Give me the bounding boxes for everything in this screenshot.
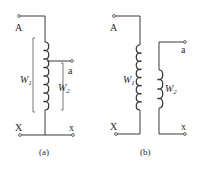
terminal-X-a bbox=[19, 134, 22, 137]
coil-w1-a bbox=[44, 42, 49, 110]
coil-w1-b bbox=[136, 45, 141, 110]
label-w1-a: W1 bbox=[20, 74, 32, 87]
panel-b: A a X x W1 W2 (b) bbox=[110, 15, 186, 157]
label-w2-a: W2 bbox=[58, 82, 70, 95]
label-A-a: A bbox=[15, 22, 23, 33]
label-a-b: a bbox=[181, 44, 186, 55]
caption-b: (b) bbox=[140, 147, 151, 157]
terminal-A-a bbox=[18, 15, 21, 18]
terminal-x-a bbox=[72, 134, 75, 137]
caption-a: (a) bbox=[39, 147, 49, 157]
label-x-a: x bbox=[69, 122, 74, 133]
label-a-a: a bbox=[68, 65, 73, 76]
wire-a-top bbox=[19, 16, 45, 42]
label-X-b: X bbox=[110, 121, 118, 132]
label-w1-b: W1 bbox=[123, 74, 135, 87]
coil-w2-b bbox=[158, 70, 163, 108]
label-w2-b: W2 bbox=[165, 83, 177, 96]
label-x-b: x bbox=[181, 121, 186, 132]
transformer-diagram: A a X x W1 W2 (a) A a X x W1 W2 (b) bbox=[0, 0, 200, 169]
terminal-x-b bbox=[184, 133, 187, 136]
terminal-A-b bbox=[113, 15, 116, 18]
panel-a: A a X x W1 W2 (a) bbox=[15, 15, 74, 157]
terminal-a-a bbox=[71, 60, 74, 63]
label-A-b: A bbox=[110, 22, 118, 33]
label-X-a: X bbox=[15, 122, 23, 133]
terminal-a-b bbox=[184, 41, 187, 44]
bracket-w1 bbox=[33, 38, 35, 112]
wire-b-primary-top bbox=[114, 16, 140, 45]
terminal-X-b bbox=[115, 133, 118, 136]
wire-b-primary-bottom bbox=[117, 110, 140, 134]
